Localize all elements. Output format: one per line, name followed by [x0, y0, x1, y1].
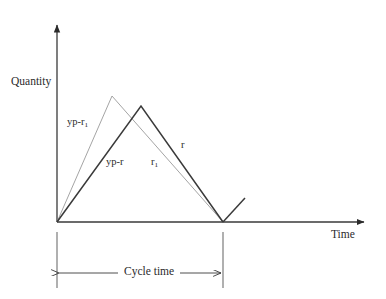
y-axis-label: Quantity — [11, 76, 51, 88]
annotation-r1-text: r — [151, 156, 155, 167]
annotation-yp-minus-r1-text: yp-r — [67, 116, 85, 127]
annotation-yp-minus-r: yp-r — [106, 157, 124, 168]
series-next-cycle-start — [223, 198, 245, 222]
annotation-r: r — [181, 140, 185, 151]
series-yp-r1-curve — [57, 96, 223, 222]
diagram-canvas: Quantity Time yp-r1 yp-r r1 r Cycle time — [0, 0, 386, 299]
x-axis-label: Time — [331, 229, 355, 241]
annotation-yp-minus-r1: yp-r1 — [67, 117, 88, 128]
annotation-yp-minus-r1-subscript: 1 — [85, 121, 89, 129]
annotation-r1: r1 — [151, 157, 158, 168]
inventory-cycle-diagram — [0, 0, 386, 299]
annotation-r1-subscript: 1 — [155, 161, 159, 169]
cycle-time-label: Cycle time — [124, 266, 174, 278]
